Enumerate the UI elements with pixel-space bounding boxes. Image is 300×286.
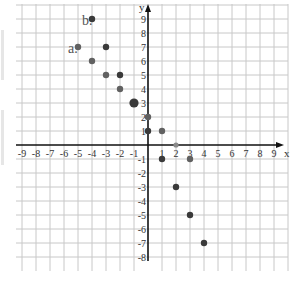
y-tick-label: 5: [141, 70, 146, 81]
y-tick-label: -2: [138, 168, 146, 179]
x-tick-label: -7: [46, 148, 54, 159]
y-tick-label: 3: [141, 98, 146, 109]
x-tick-label: -6: [60, 148, 68, 159]
point-annotation: a.: [68, 41, 78, 56]
y-tick-label: -6: [138, 224, 146, 235]
y-tick-label: -3: [138, 182, 146, 193]
data-point: [129, 98, 138, 107]
data-point: [89, 58, 95, 64]
y-tick-label: -5: [138, 210, 146, 221]
y-tick-label: 8: [141, 28, 146, 39]
x-tick-label: -8: [32, 148, 40, 159]
x-tick-label: 6: [230, 148, 235, 159]
data-point: [159, 128, 165, 134]
point-annotation: b.: [82, 13, 93, 28]
tick-labels: xy-9-8-7-6-5-4-3-2-1123456789-8-7-6-5-4-…: [18, 1, 290, 263]
x-axis-arrow-icon: [276, 142, 284, 148]
y-tick-label: 7: [141, 42, 146, 53]
grid: [16, 4, 288, 271]
data-point: [159, 156, 165, 162]
data-point: [103, 72, 109, 78]
data-point: [145, 114, 151, 120]
x-tick-label: 5: [216, 148, 221, 159]
x-tick-label: -3: [102, 148, 110, 159]
y-tick-label: -7: [138, 238, 146, 249]
y-tick-label: 6: [141, 56, 146, 67]
data-point: [201, 240, 207, 246]
data-point: [117, 72, 123, 78]
x-tick-label: -9: [18, 148, 26, 159]
data-point: [117, 86, 123, 92]
y-tick-label: -1: [138, 154, 146, 165]
x-tick-label: 7: [244, 148, 249, 159]
y-tick-label: -8: [138, 252, 146, 263]
y-axis-label: y: [139, 1, 145, 13]
x-tick-label: -2: [116, 148, 124, 159]
y-tick-label: -4: [138, 196, 146, 207]
data-point: [173, 184, 179, 190]
x-tick-label: 8: [258, 148, 263, 159]
data-point: [173, 142, 178, 147]
data-point: [187, 212, 193, 218]
y-tick-label: 9: [141, 14, 146, 25]
x-axis-label: x: [284, 147, 290, 159]
x-tick-label: 9: [272, 148, 277, 159]
x-tick-label: 4: [202, 148, 207, 159]
x-tick-label: 2: [174, 148, 179, 159]
y-tick-label: 4: [141, 84, 146, 95]
x-tick-label: -5: [74, 148, 82, 159]
data-point: [103, 44, 109, 50]
data-point: [187, 156, 193, 162]
data-point: [145, 128, 151, 134]
scatter-plot: xy-9-8-7-6-5-4-3-2-1123456789-8-7-6-5-4-…: [0, 0, 300, 286]
x-tick-label: -4: [88, 148, 96, 159]
